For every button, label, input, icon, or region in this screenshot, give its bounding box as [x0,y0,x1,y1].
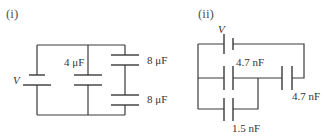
circuit-i: (i) V 4 μF 8 μF 8 μF [6,6,167,115]
battery-label-ii: V [218,23,226,35]
circuit-ii: (ii) V 4.7 nF 4.7 nF 1.5 nF [198,6,320,134]
battery-icon-ii [224,34,233,54]
part-label-ii: (ii) [198,6,214,21]
capacitor-icon-4uf [74,75,102,85]
wire-bottom-row [198,78,258,109]
circuit-diagram: (i) V 4 μF 8 μF 8 μF (ii) [0,0,325,137]
capacitor-label-8uf-top: 8 μF [147,54,167,66]
battery-icon [23,75,51,85]
capacitor-label-1-5nf: 1.5 nF [232,122,260,134]
capacitor-icon-1-5nf [224,98,233,121]
capacitor-label-4-7nf-left: 4.7 nF [236,56,264,68]
capacitor-icon-8uf-top [111,55,139,65]
capacitor-label-4-7nf-right: 4.7 nF [292,90,320,102]
part-label-i: (i) [6,6,18,21]
capacitor-icon-4-7nf-right [282,66,292,90]
battery-label-i: V [13,74,21,86]
capacitor-icon-8uf-bottom [111,95,139,105]
capacitor-label-8uf-bottom: 8 μF [147,93,167,105]
capacitor-icon-4-7nf-left [224,66,233,90]
capacitor-label-4uf: 4 μF [64,56,84,68]
